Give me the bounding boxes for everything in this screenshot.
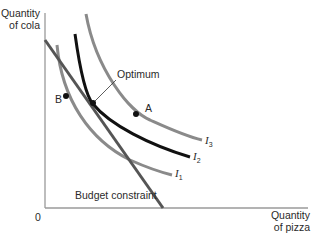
i2-label: I2: [193, 150, 201, 164]
budget-constraint-label: Budget constraint: [75, 189, 157, 201]
i2-subscript: 2: [197, 157, 201, 164]
i1-subscript: 1: [179, 174, 183, 181]
indifference-curve-diagram: Quantity of cola Quantity of pizza 0 Opt…: [0, 0, 326, 245]
point-a-label: A: [145, 102, 152, 114]
optimum-label: Optimum: [117, 68, 160, 80]
origin-label: 0: [35, 211, 41, 223]
point-a: [133, 111, 139, 117]
x-axis-label-line1: Quantity: [262, 209, 310, 221]
optimum-leader-line: [93, 80, 116, 103]
optimum-point: [90, 100, 96, 106]
point-b-label: B: [55, 93, 62, 105]
indifference-curve-i1: [57, 45, 172, 175]
x-axis-label-line2: of pizza: [262, 221, 310, 233]
i1-label: I1: [175, 167, 183, 181]
i3-subscript: 3: [209, 141, 213, 148]
y-axis-label: Quantity of cola: [0, 7, 40, 31]
i3-label: I3: [205, 134, 213, 148]
x-axis-label: Quantity of pizza: [262, 209, 310, 233]
y-axis-label-line2: of cola: [0, 19, 40, 31]
y-axis-label-line1: Quantity: [0, 7, 40, 19]
indifference-curve-i2: [75, 34, 190, 157]
point-b: [63, 93, 69, 99]
